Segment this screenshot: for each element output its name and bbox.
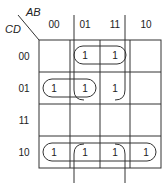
col-label-10: 10 xyxy=(140,19,152,30)
cell-r3-c2: 1 xyxy=(112,147,118,158)
row-label-01: 01 xyxy=(18,83,30,94)
cell-r1-c0: 1 xyxy=(51,83,57,94)
col-label-01: 01 xyxy=(79,19,91,30)
row-var-label: CD xyxy=(5,23,21,35)
col-label-11: 11 xyxy=(110,19,121,30)
cell-r3-c1: 1 xyxy=(82,147,88,158)
row-label-00: 00 xyxy=(18,51,30,62)
cell-r3-c0: 1 xyxy=(51,147,57,158)
cell-r0-c1: 1 xyxy=(82,50,88,61)
karnaugh-map: AB CD 00 01 11 10 00 01 11 10 1 1 1 xyxy=(0,0,168,193)
row-label-11: 11 xyxy=(19,115,30,126)
col-label-00: 00 xyxy=(48,19,60,30)
cell-r1-c1: 1 xyxy=(82,83,88,94)
col-var-label: AB xyxy=(25,6,41,18)
cell-r3-c3: 1 xyxy=(143,147,149,158)
cell-r0-c2: 1 xyxy=(112,50,118,61)
row-label-10: 10 xyxy=(18,147,30,158)
header-diagonal xyxy=(18,15,39,40)
cell-r1-c2: 1 xyxy=(112,83,118,94)
